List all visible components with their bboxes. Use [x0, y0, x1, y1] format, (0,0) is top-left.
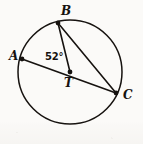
point-a-dot: [20, 57, 25, 62]
center-t-label: T: [64, 77, 73, 89]
point-a-label: A: [9, 50, 18, 62]
geometry-figure: A B C T 52°: [0, 0, 143, 144]
point-b-label: B: [61, 5, 71, 17]
angle-atb-label: 52°: [45, 52, 63, 62]
point-c-label: C: [123, 89, 133, 101]
circle-diagram-svg: [0, 0, 143, 144]
point-c-dot: [114, 91, 119, 96]
point-t-center-dot: [68, 70, 73, 75]
point-b-dot: [56, 21, 61, 26]
